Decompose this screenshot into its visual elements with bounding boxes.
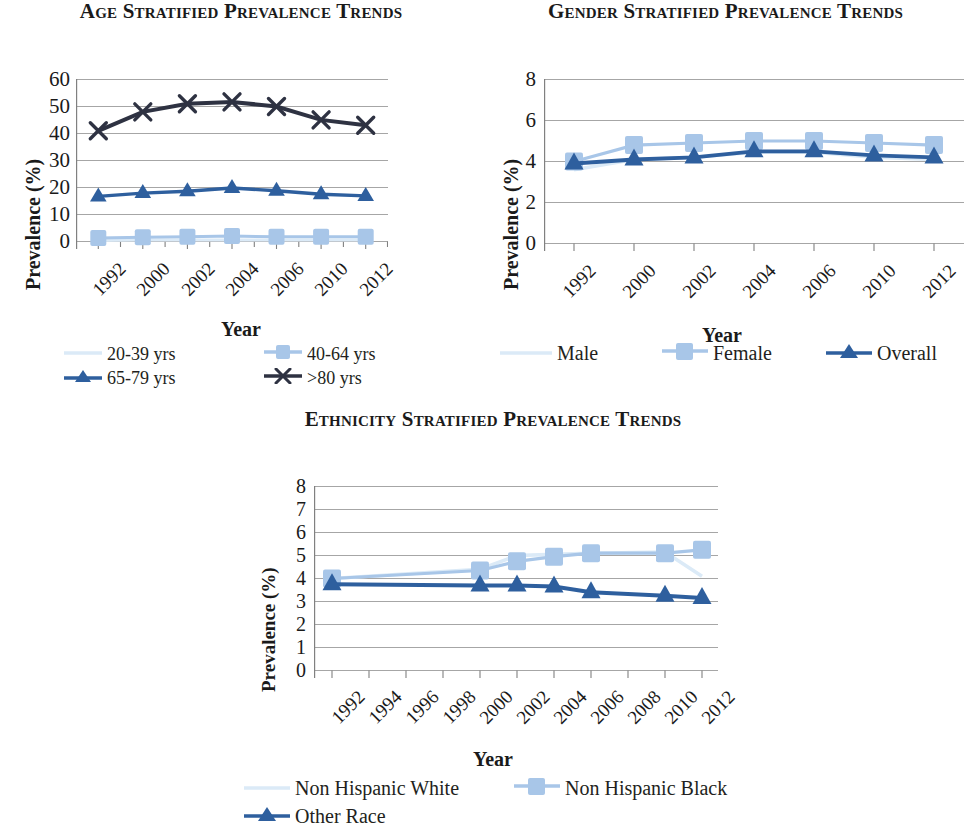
legend-label: Other Race: [292, 805, 386, 823]
ethnicity-ytick: 0: [280, 659, 306, 682]
ethnicity-ytick: 6: [280, 521, 306, 544]
ethnicity-ytick: 4: [280, 567, 306, 590]
legend-key-triangle-icon: [824, 342, 874, 365]
gender-ytick: 4: [506, 149, 536, 174]
gender-ytick: 2: [506, 190, 536, 215]
gender-stratified-chart-panel: Gender Stratified Prevalence Trends Prev…: [482, 0, 969, 395]
legend-item-over-80-yrs[interactable]: >80 yrs: [262, 366, 462, 390]
legend-label: Male: [554, 342, 598, 365]
age-plot-area: [76, 79, 388, 241]
ethnicity-legend: Non Hispanic White Non Hispanic Black Ot…: [242, 774, 762, 823]
legend-key-triangle-icon: [242, 805, 292, 823]
legend-label: 40-64 yrs: [304, 344, 376, 365]
age-ytick: 60: [28, 67, 70, 92]
legend-item-40-64-yrs[interactable]: 40-64 yrs: [262, 342, 462, 366]
legend-label: Non Hispanic Black: [562, 777, 727, 800]
age-xtick: 2000: [117, 258, 175, 316]
legend-label: >80 yrs: [304, 368, 362, 389]
gender-ytick: 8: [506, 67, 536, 92]
legend-key-square-icon: [660, 342, 710, 365]
ethnicity-ytick: 3: [280, 590, 306, 613]
gender-ytick: 6: [506, 108, 536, 133]
legend-item-female[interactable]: Female: [660, 340, 824, 366]
age-stratified-chart-panel: Age Stratified Prevalence Trends Prevale…: [0, 0, 482, 395]
age-plot-wrapper: Prevalence (%) 60 50 40 30 20 10 0: [0, 62, 482, 322]
legend-label: Overall: [874, 342, 937, 365]
gender-xtick: 2010: [843, 260, 901, 318]
legend-key-triangle-icon: [62, 368, 104, 389]
ethnicity-ytick: 1: [280, 636, 306, 659]
ethnicity-x-axis-label: Year: [228, 748, 758, 771]
age-chart-title: Age Stratified Prevalence Trends: [0, 0, 482, 24]
legend-item-male[interactable]: Male: [498, 340, 660, 366]
age-ytick: 40: [28, 121, 70, 146]
gender-xtick: 2004: [723, 260, 781, 318]
age-xtick: 1992: [73, 258, 131, 316]
legend-label: Non Hispanic White: [292, 777, 459, 800]
age-ytick: 10: [28, 202, 70, 227]
legend-key-square-icon: [262, 344, 304, 365]
age-xtick: 2004: [206, 258, 264, 316]
legend-label: 65-79 yrs: [104, 368, 176, 389]
gender-xtick: 1992: [543, 260, 601, 318]
gender-xtick: 2012: [903, 260, 961, 318]
ethnicity-ytick: 7: [280, 498, 306, 521]
ethnicity-ytick: 5: [280, 544, 306, 567]
gender-ytick: 0: [506, 231, 536, 256]
legend-item-20-39-yrs[interactable]: 20-39 yrs: [62, 342, 262, 366]
age-ytick: 30: [28, 148, 70, 173]
legend-item-65-79-yrs[interactable]: 65-79 yrs: [62, 366, 262, 390]
gender-legend: Male Female Overall: [498, 340, 968, 366]
legend-label: 20-39 yrs: [104, 344, 176, 365]
age-xtick: 2010: [295, 258, 353, 316]
age-x-axis-label: Year: [0, 318, 482, 341]
gender-xtick: 2002: [663, 260, 721, 318]
legend-key-line-icon: [242, 777, 292, 800]
gender-chart-title: Gender Stratified Prevalence Trends: [482, 0, 969, 24]
legend-item-non-hispanic-white[interactable]: Non Hispanic White: [242, 774, 512, 802]
ethnicity-y-axis-label: Prevalence (%): [258, 567, 280, 692]
ethnicity-chart-title: Ethnicity Stratified Prevalence Trends: [228, 408, 758, 432]
legend-label: Female: [710, 342, 772, 365]
legend-key-line-icon: [62, 344, 104, 365]
age-ytick: 20: [28, 175, 70, 200]
age-ytick: 50: [28, 94, 70, 119]
age-xtick: 2012: [340, 258, 398, 316]
age-ytick: 0: [28, 229, 70, 254]
age-legend: 20-39 yrs 40-64 yrs 65-79 yrs >80 yrs: [62, 342, 462, 390]
gender-plot-wrapper: Prevalence (%) 8 6 4 2 0: [482, 62, 969, 322]
gender-y-axis-label: Prevalence (%): [500, 159, 523, 290]
gender-plot-area: [544, 79, 964, 243]
legend-key-x-icon: [262, 368, 304, 389]
ethnicity-plot-area: [314, 486, 718, 670]
gender-xtick: 2006: [783, 260, 841, 318]
legend-key-line-icon: [498, 342, 554, 365]
legend-item-other-race[interactable]: Other Race: [242, 802, 512, 823]
ethnicity-ytick: 8: [280, 475, 306, 498]
age-xtick: 2002: [162, 258, 220, 316]
legend-item-overall[interactable]: Overall: [824, 340, 964, 366]
ethnicity-plot-wrapper: Prevalence (%) 8 7 6 5 4 3 2 1 0: [228, 470, 758, 740]
ethnicity-ytick: 2: [280, 613, 306, 636]
age-xtick: 2006: [251, 258, 309, 316]
legend-key-square-icon: [512, 777, 562, 800]
gender-xtick: 2000: [603, 260, 661, 318]
legend-item-non-hispanic-black[interactable]: Non Hispanic Black: [512, 774, 760, 802]
ethnicity-stratified-chart-panel: Ethnicity Stratified Prevalence Trends P…: [228, 408, 758, 823]
